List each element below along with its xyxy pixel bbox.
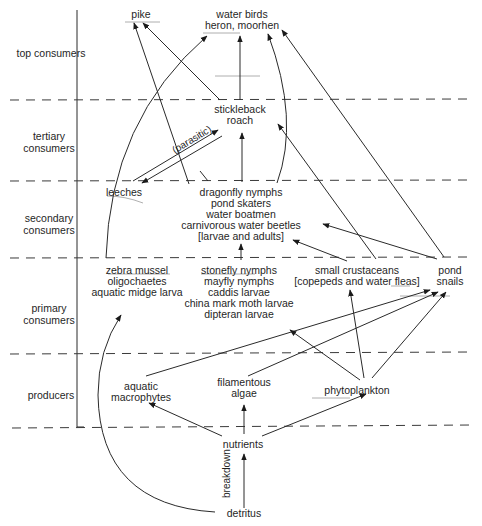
node-stickleback: stickleback roach bbox=[214, 104, 265, 126]
node-line: algae bbox=[217, 388, 271, 399]
node-line: roach bbox=[214, 115, 265, 126]
node-aquatic-macrophytes: aquatic macrophytes bbox=[111, 381, 171, 403]
node-detritus: detritus bbox=[227, 508, 261, 519]
node-crustaceans: small crustaceans [copepeds and water fl… bbox=[294, 265, 420, 287]
node-line: [copepeds and water fleas] bbox=[294, 276, 420, 287]
node-zebra-mussel: zebra mussel oligochaetes aquatic midge … bbox=[91, 265, 182, 298]
node-line: phytoplankton bbox=[324, 385, 389, 396]
level-label-tertiary: tertiary consumers bbox=[10, 130, 88, 154]
node-line: dipteran larvae bbox=[184, 309, 293, 320]
node-filamentous-algae: filamentous algae bbox=[217, 377, 271, 399]
level-label-text: producers bbox=[28, 389, 75, 401]
node-water-birds: water birds heron, moorhen bbox=[205, 9, 279, 31]
level-label-top: top consumers bbox=[6, 47, 96, 59]
node-phytoplankton: phytoplankton bbox=[324, 385, 389, 396]
node-line: pike bbox=[131, 9, 150, 20]
node-pond-snails: pond snails bbox=[437, 265, 464, 287]
annotation-breakdown: breakdown bbox=[221, 449, 232, 498]
level-label-text: tertiary consumers bbox=[23, 130, 74, 154]
level-label-text: primary consumers bbox=[23, 302, 74, 326]
level-label-primary: primary consumers bbox=[10, 302, 88, 326]
node-line: [larvae and adults] bbox=[181, 231, 301, 242]
node-stonefly: stonefly nymphs mayfly nymphs caddis lar… bbox=[184, 265, 293, 320]
level-label-secondary: secondary consumers bbox=[8, 212, 90, 236]
node-line: aquatic midge larva bbox=[91, 287, 182, 298]
level-label-producers: producers bbox=[6, 389, 96, 401]
node-dragonfly: dragonfly nymphs pond skaters water boat… bbox=[181, 187, 301, 242]
level-label-text: secondary consumers bbox=[23, 212, 74, 236]
node-pike: pike bbox=[131, 9, 150, 20]
node-line: heron, moorhen bbox=[205, 20, 279, 31]
node-leeches: leeches bbox=[106, 187, 142, 198]
node-line: snails bbox=[437, 276, 464, 287]
node-line: leeches bbox=[106, 187, 142, 198]
node-line: macrophytes bbox=[111, 392, 171, 403]
node-line: detritus bbox=[227, 508, 261, 519]
level-label-text: top consumers bbox=[17, 47, 86, 59]
